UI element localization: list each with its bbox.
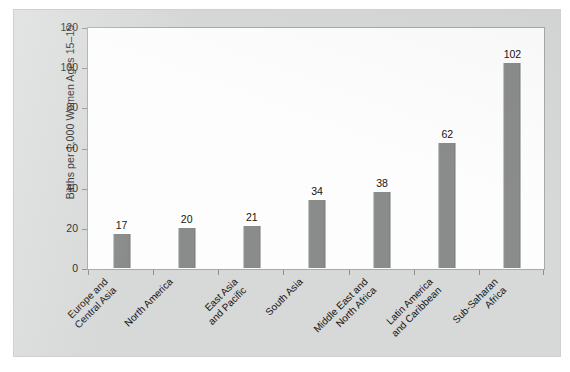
- bar-value-label: 62: [441, 128, 453, 140]
- bar-value-label: 21: [246, 211, 258, 223]
- plot-area: 172021343862102: [87, 27, 545, 270]
- x-axis-category-label-line: South Asia: [263, 276, 305, 318]
- y-axis-tick-label: 0: [72, 262, 78, 274]
- bar-group[interactable]: 102: [480, 29, 545, 268]
- bar-group[interactable]: 20: [154, 29, 219, 268]
- bar-group[interactable]: 34: [284, 29, 349, 268]
- figure-panel: Births per 1,000 Women Ages 15–19 020406…: [14, 10, 560, 356]
- x-axis-category-label: South Asia: [263, 276, 305, 318]
- bar[interactable]: [374, 192, 391, 268]
- bar-value-label: 20: [181, 213, 193, 225]
- bar-group[interactable]: 17: [89, 29, 154, 268]
- x-axis-category-label: Europe andCentral Asia: [63, 276, 117, 330]
- x-axis-category-label: Sub-SaharanAfrica: [451, 276, 509, 334]
- bar[interactable]: [439, 143, 456, 268]
- bar[interactable]: [308, 200, 325, 268]
- bar-value-label: 17: [116, 219, 128, 231]
- y-axis-tick-label: 20: [66, 222, 78, 234]
- y-axis: 020406080100120: [14, 27, 87, 270]
- x-axis-labels: Europe andCentral AsiaNorth AmericaEast …: [87, 272, 545, 356]
- bar[interactable]: [178, 228, 195, 268]
- bar-value-label: 34: [311, 185, 323, 197]
- bars-layer: 172021343862102: [89, 29, 543, 268]
- x-axis-category-label: Middle East andNorth Africa: [311, 276, 378, 343]
- y-axis-tick-label: 60: [66, 142, 78, 154]
- bar-value-label: 38: [376, 177, 388, 189]
- y-axis-tick-label: 120: [60, 21, 78, 33]
- bar[interactable]: [113, 234, 130, 268]
- bar-group[interactable]: 38: [350, 29, 415, 268]
- bar-group[interactable]: 21: [219, 29, 284, 268]
- bar-group[interactable]: 62: [415, 29, 480, 268]
- x-axis-category-label: East Asiaand Pacific: [197, 276, 248, 327]
- x-axis-category-label: Latin Americaand Caribbean: [381, 276, 444, 339]
- x-axis-category-label: North America: [122, 276, 175, 329]
- y-axis-tick-label: 40: [66, 182, 78, 194]
- x-axis-category-label-line: North America: [122, 276, 175, 329]
- bar-value-label: 102: [504, 48, 522, 60]
- bar[interactable]: [504, 63, 521, 268]
- bar[interactable]: [243, 226, 260, 268]
- y-axis-tick-label: 100: [60, 61, 78, 73]
- y-axis-tick-label: 80: [66, 101, 78, 113]
